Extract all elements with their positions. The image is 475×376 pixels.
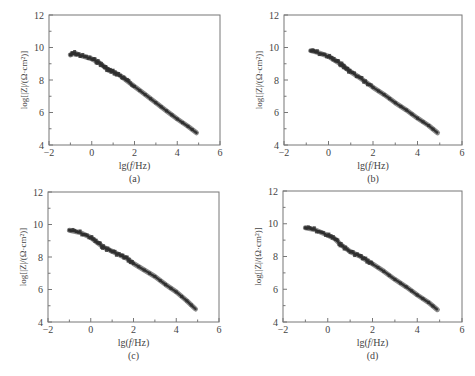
- x-tick-label: 0: [325, 324, 330, 335]
- x-tick-label: 6: [218, 147, 223, 158]
- chart-b: −202464681012lg(f/Hz)(b)log[|Z|/(Ω·cm²)]: [237, 0, 475, 188]
- impedance-band: [311, 51, 438, 133]
- y-tick-label: 8: [38, 252, 43, 263]
- y-tick-label: 6: [273, 284, 278, 295]
- y-tick-label: 4: [273, 317, 278, 328]
- x-tick-label: −2: [43, 324, 54, 335]
- chart-c: −202464681012lg(f/Hz)(c)log[|Z|/(Ω·cm²)]: [0, 177, 237, 376]
- y-axis-label: log[|Z|/(Ω·cm²)]: [253, 227, 263, 285]
- y-tick-label: 8: [39, 75, 44, 86]
- y-axis-label: log[|Z|/(Ω·cm²)]: [19, 51, 29, 109]
- y-tick-label: 6: [38, 284, 43, 295]
- y-tick-label: 4: [39, 140, 44, 151]
- panel-a: −202464681012lg(f/Hz)(a)log[|Z|/(Ω·cm²)]: [0, 0, 237, 188]
- y-axis-label: log[|Z|/(Ω·cm²)]: [254, 51, 264, 109]
- x-tick-label: 6: [217, 324, 222, 335]
- plot-frame: [284, 15, 462, 145]
- y-tick-label: 12: [268, 186, 278, 197]
- plot-frame: [49, 15, 220, 145]
- x-axis-label: lg(f/Hz): [357, 337, 389, 349]
- panel-label: (d): [367, 350, 379, 362]
- y-tick-label: 10: [268, 218, 278, 229]
- x-tick-label: 6: [460, 324, 465, 335]
- y-axis-label: log[|Z|/(Ω·cm²)]: [18, 228, 28, 286]
- panel-label: (c): [128, 350, 139, 362]
- y-tick-label: 12: [33, 187, 43, 198]
- plot-frame: [283, 191, 462, 322]
- data-points: [68, 228, 193, 306]
- y-tick-label: 10: [33, 219, 43, 230]
- y-tick-label: 6: [274, 107, 279, 118]
- y-tick-label: 6: [39, 107, 44, 118]
- impedance-curve: [69, 230, 195, 309]
- panel-d: −202464681012lg(f/Hz)(d)log[|Z|/(Ω·cm²)]: [237, 177, 475, 376]
- x-tick-label: 0: [88, 324, 93, 335]
- panel-c: −202464681012lg(f/Hz)(c)log[|Z|/(Ω·cm²)]: [0, 177, 237, 376]
- x-tick-label: −2: [44, 147, 55, 158]
- x-axis-label: lg(f/Hz): [119, 160, 151, 172]
- x-tick-label: 2: [131, 324, 136, 335]
- x-tick-label: −2: [278, 324, 289, 335]
- panel-b: −202464681012lg(f/Hz)(b)log[|Z|/(Ω·cm²)]: [237, 0, 475, 188]
- x-tick-label: 2: [132, 147, 137, 158]
- x-tick-label: 2: [370, 324, 375, 335]
- y-tick-label: 10: [269, 42, 279, 53]
- y-tick-label: 4: [38, 317, 43, 328]
- plot-frame: [48, 192, 219, 322]
- impedance-band: [69, 230, 195, 309]
- x-tick-label: 4: [174, 324, 179, 335]
- chart-d: −202464681012lg(f/Hz)(d)log[|Z|/(Ω·cm²)]: [237, 177, 475, 376]
- y-tick-label: 12: [269, 10, 279, 21]
- y-tick-label: 8: [273, 251, 278, 262]
- y-tick-label: 10: [34, 42, 44, 53]
- x-tick-label: 0: [326, 147, 331, 158]
- x-tick-label: 6: [460, 147, 465, 158]
- x-axis-label: lg(f/Hz): [118, 337, 150, 349]
- y-tick-label: 8: [274, 75, 279, 86]
- x-tick-label: 4: [415, 324, 420, 335]
- impedance-band: [305, 228, 437, 310]
- x-axis-label: lg(f/Hz): [357, 160, 389, 172]
- x-tick-label: 2: [371, 147, 376, 158]
- impedance-band: [70, 53, 196, 133]
- x-tick-label: −2: [279, 147, 290, 158]
- x-tick-label: 0: [89, 147, 94, 158]
- x-tick-label: 4: [415, 147, 420, 158]
- x-tick-label: 4: [175, 147, 180, 158]
- y-tick-label: 12: [34, 10, 44, 21]
- y-tick-label: 4: [274, 140, 279, 151]
- chart-a: −202464681012lg(f/Hz)(a)log[|Z|/(Ω·cm²)]: [0, 0, 237, 188]
